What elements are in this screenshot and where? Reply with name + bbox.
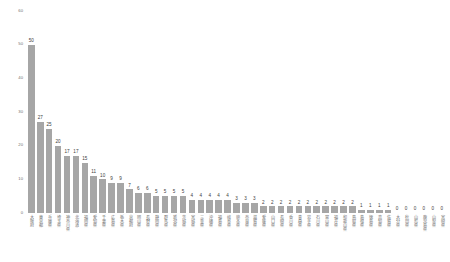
- bar-rect[interactable]: [28, 45, 35, 213]
- bar-value-label: 6: [137, 187, 140, 192]
- bar-column[interactable]: 5: [179, 11, 188, 213]
- y-axis-tick-40: 40: [18, 76, 23, 80]
- bar-column[interactable]: 10: [98, 11, 107, 213]
- bar-column[interactable]: 9: [116, 11, 125, 213]
- bar-rect[interactable]: [90, 176, 97, 213]
- bar-column[interactable]: 2: [277, 11, 286, 213]
- bar-column[interactable]: 17: [72, 11, 81, 213]
- bar-rect[interactable]: [233, 203, 240, 213]
- bar-rect[interactable]: [64, 156, 71, 213]
- bar-column[interactable]: 6: [143, 11, 152, 213]
- bar-column[interactable]: 2: [295, 11, 304, 213]
- bar-column[interactable]: 4: [205, 11, 214, 213]
- bar-rect[interactable]: [251, 203, 258, 213]
- bar-rect[interactable]: [385, 210, 392, 213]
- x-axis-tick-label: 神奈川県: [65, 215, 69, 231]
- bar-rect[interactable]: [376, 210, 383, 213]
- bar-column[interactable]: 9: [107, 11, 116, 213]
- bar-rect[interactable]: [73, 156, 80, 213]
- bar-rect[interactable]: [269, 206, 276, 213]
- bar-column[interactable]: 2: [339, 11, 348, 213]
- bar-column[interactable]: 2: [286, 11, 295, 213]
- bar-rect[interactable]: [340, 206, 347, 213]
- bar-rect[interactable]: [313, 206, 320, 213]
- bar-column[interactable]: 2: [259, 11, 268, 213]
- bar-rect[interactable]: [206, 200, 213, 213]
- bar-value-label: 4: [191, 194, 194, 199]
- x-axis-tick-label: 長崎県: [279, 215, 283, 227]
- bar-column[interactable]: 0: [393, 11, 402, 213]
- bar-column[interactable]: 5: [152, 11, 161, 213]
- bar-column[interactable]: 20: [54, 11, 63, 213]
- bar-rect[interactable]: [82, 163, 89, 214]
- bar-column[interactable]: 0: [411, 11, 420, 213]
- bar-rect[interactable]: [189, 200, 196, 213]
- bar-rect[interactable]: [153, 196, 160, 213]
- bar-column[interactable]: 3: [232, 11, 241, 213]
- bar-series: 5027252017171511109976655554444433322222…: [27, 11, 446, 213]
- bar-rect[interactable]: [37, 122, 44, 213]
- bar-column[interactable]: 0: [428, 11, 437, 213]
- bar-column[interactable]: 2: [348, 11, 357, 213]
- bar-column[interactable]: 4: [197, 11, 206, 213]
- bar-column[interactable]: 6: [134, 11, 143, 213]
- bar-column[interactable]: 27: [36, 11, 45, 213]
- bar-rect[interactable]: [242, 203, 249, 213]
- bar-rect[interactable]: [46, 129, 53, 213]
- bar-column[interactable]: 4: [188, 11, 197, 213]
- bar-rect[interactable]: [287, 206, 294, 213]
- bar-column[interactable]: 4: [223, 11, 232, 213]
- bar-column[interactable]: 1: [357, 11, 366, 213]
- bar-column[interactable]: 1: [366, 11, 375, 213]
- x-axis-tick-label: 沖縄県: [208, 215, 212, 227]
- bar-column[interactable]: 0: [437, 11, 446, 213]
- bar-rect[interactable]: [296, 206, 303, 213]
- bar-rect[interactable]: [367, 210, 374, 213]
- bar-rect[interactable]: [117, 183, 124, 213]
- bar-column[interactable]: 0: [402, 11, 411, 213]
- bar-column[interactable]: 15: [81, 11, 90, 213]
- bar-column[interactable]: 11: [89, 11, 98, 213]
- bar-column[interactable]: 3: [241, 11, 250, 213]
- bar-rect[interactable]: [358, 210, 365, 213]
- bar-rect[interactable]: [135, 193, 142, 213]
- bar-rect[interactable]: [305, 206, 312, 213]
- bar-rect[interactable]: [108, 183, 115, 213]
- bar-rect[interactable]: [260, 206, 267, 213]
- bar-rect[interactable]: [224, 200, 231, 213]
- bar-column[interactable]: 5: [170, 11, 179, 213]
- bar-column[interactable]: 5: [161, 11, 170, 213]
- bar-column[interactable]: 50: [27, 11, 36, 213]
- bar-column[interactable]: 2: [330, 11, 339, 213]
- bar-rect[interactable]: [144, 193, 151, 213]
- bar-rect[interactable]: [278, 206, 285, 213]
- bar-rect[interactable]: [171, 196, 178, 213]
- bar-column[interactable]: 2: [313, 11, 322, 213]
- bar-column[interactable]: 2: [321, 11, 330, 213]
- bar-column[interactable]: 7: [125, 11, 134, 213]
- bar-column[interactable]: 0: [420, 11, 429, 213]
- bar-column[interactable]: 1: [375, 11, 384, 213]
- bar-value-label: 2: [351, 201, 354, 206]
- bar-rect[interactable]: [331, 206, 338, 213]
- bar-rect[interactable]: [180, 196, 187, 213]
- bar-column[interactable]: 4: [214, 11, 223, 213]
- bar-column[interactable]: 25: [45, 11, 54, 213]
- bar-rect[interactable]: [215, 200, 222, 213]
- x-label-column: 宮城県: [188, 215, 197, 227]
- bar-rect[interactable]: [55, 146, 62, 213]
- bar-column[interactable]: 2: [304, 11, 313, 213]
- bar-column[interactable]: 2: [268, 11, 277, 213]
- bar-column[interactable]: 3: [250, 11, 259, 213]
- bar-rect[interactable]: [349, 206, 356, 213]
- bar-rect[interactable]: [162, 196, 169, 213]
- bar-rect[interactable]: [198, 200, 205, 213]
- bar-rect[interactable]: [126, 189, 133, 213]
- bar-column[interactable]: 17: [63, 11, 72, 213]
- bar-rect[interactable]: [99, 179, 106, 213]
- bar-value-label: 15: [82, 157, 87, 162]
- x-label-column: 千葉県: [98, 215, 107, 227]
- x-axis-tick-label: 千葉県: [101, 215, 105, 227]
- bar-column[interactable]: 1: [384, 11, 393, 213]
- bar-rect[interactable]: [322, 206, 329, 213]
